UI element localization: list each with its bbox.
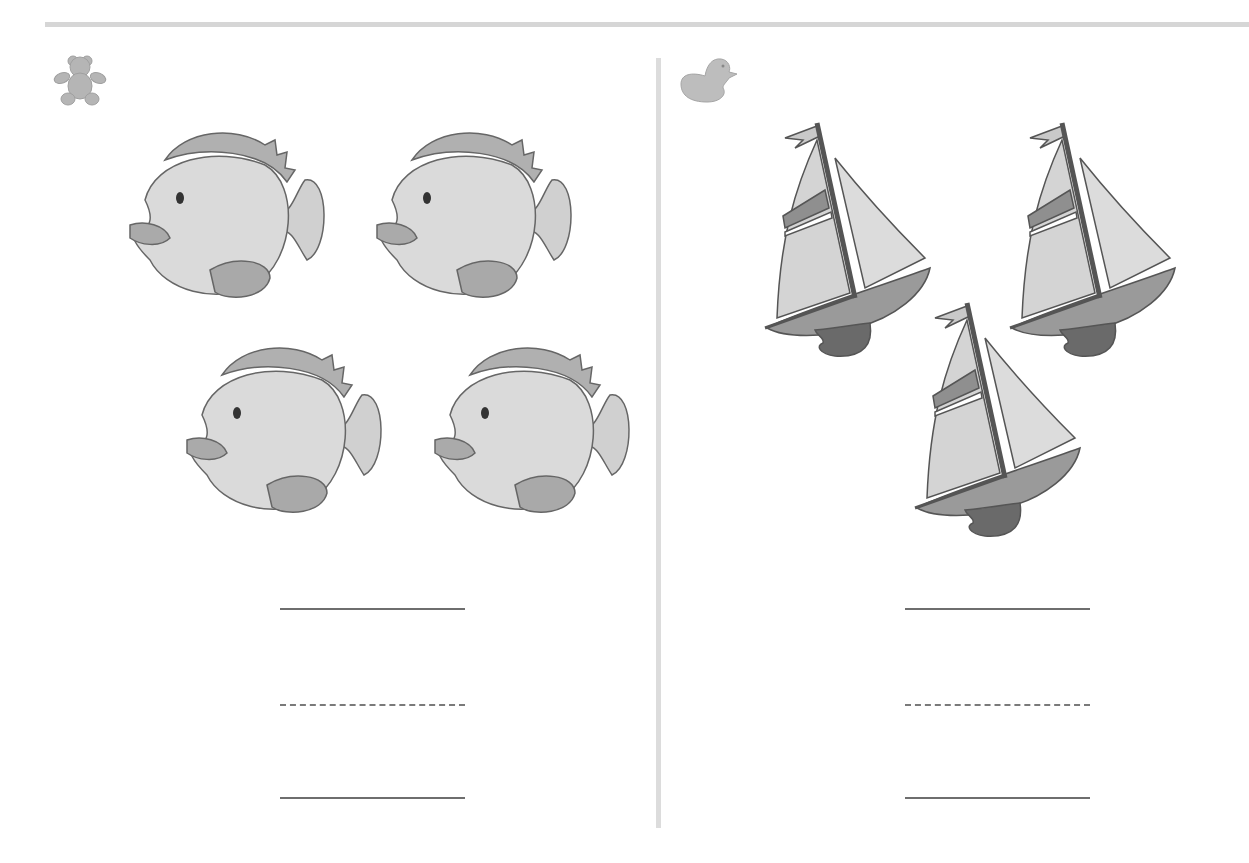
fish-1 [125, 120, 330, 305]
top-rule [45, 22, 1249, 27]
left-panel [0, 40, 650, 840]
answer-line-top [280, 608, 465, 610]
right-panel [665, 40, 1249, 840]
answer-line-middle-dashed [905, 704, 1090, 706]
panel-divider [656, 58, 661, 828]
answer-line-bottom [280, 797, 465, 799]
fish-2 [372, 120, 577, 305]
sailboat-3 [905, 298, 1085, 543]
teddy-bear-icon [52, 52, 108, 108]
answer-line-bottom [905, 797, 1090, 799]
duck-icon [677, 54, 739, 104]
answer-line-top [905, 608, 1090, 610]
fish-4 [430, 335, 635, 520]
fish-3 [182, 335, 387, 520]
answer-line-middle-dashed [280, 704, 465, 706]
